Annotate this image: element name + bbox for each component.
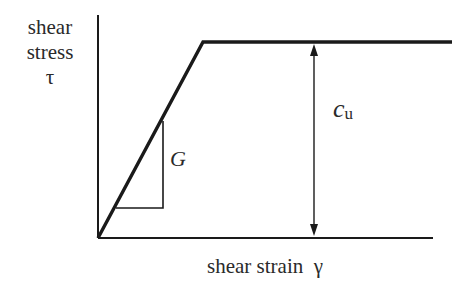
y-axis-symbol: τ [6, 65, 94, 90]
arrowhead-down-icon [310, 224, 318, 236]
y-axis-label: shear stress τ [6, 15, 94, 90]
cu-subscript: u [345, 104, 354, 123]
slope-triangle [116, 121, 163, 208]
cu-symbol: c [333, 94, 345, 123]
arrowhead-up-icon [310, 44, 318, 56]
shear-modulus-label: G [170, 148, 186, 170]
x-axis-label-text: shear strain [207, 254, 303, 278]
y-axis-label-line2: stress [6, 40, 94, 65]
x-axis-label: shear strain γ [207, 256, 323, 277]
y-axis-label-line1: shear [6, 15, 94, 40]
x-axis-symbol: γ [314, 254, 323, 278]
undrained-strength-label: cu [333, 96, 353, 122]
